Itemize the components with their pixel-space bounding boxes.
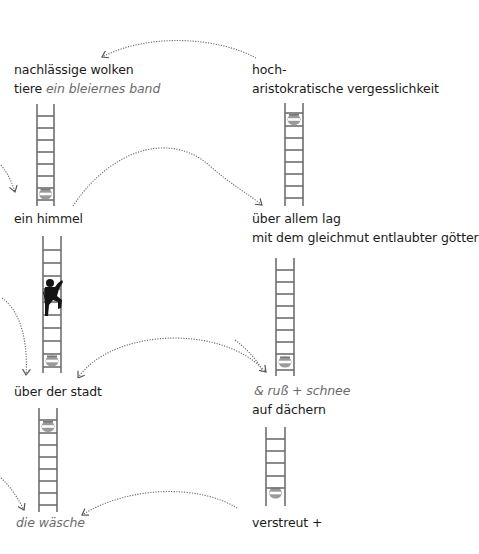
- dotted-arrow-icon: [1, 478, 24, 510]
- verse-text: mit dem gleichmut entlaubter götter: [252, 230, 479, 245]
- verse-text-italic: & ruß + schnee: [254, 383, 350, 398]
- verse-text: tiere: [14, 81, 42, 96]
- pot-icon: [269, 488, 282, 499]
- climbing-figure-icon: [43, 279, 63, 316]
- verse-text: über der stadt: [14, 384, 102, 399]
- pot-icon: [288, 114, 301, 125]
- right-stanza-2-line-2: mit dem gleichmut entlaubter götter: [252, 230, 479, 246]
- pot-icon: [279, 357, 292, 368]
- ladder-right-1: [285, 103, 303, 206]
- verse-text-italic: ein bleiernes band: [46, 81, 160, 96]
- ladder-left-2: [43, 236, 61, 373]
- left-stanza-4-line-1: die wäsche: [16, 515, 85, 531]
- right-stanza-2-line-1: über allem lag: [252, 211, 341, 227]
- dotted-arrow-icon: [102, 41, 256, 58]
- dotted-arrow-icon: [78, 338, 266, 378]
- right-stanza-3-line-1: & ruß + schnee: [254, 383, 350, 399]
- right-stanza-3-line-2: auf dächern: [252, 402, 326, 418]
- right-stanza-4-line-1: verstreut +: [252, 515, 322, 531]
- ladder-right-3: [266, 427, 285, 506]
- dotted-arrow-icon: [1, 165, 15, 192]
- ladder-left-1: [37, 104, 54, 206]
- right-stanza-1-line-2: aristokratische vergesslichkeit: [252, 81, 439, 97]
- verse-text: über allem lag: [252, 211, 341, 226]
- verse-text: auf dächern: [252, 402, 326, 417]
- pot-icon: [42, 421, 55, 432]
- ladder-right-2: [276, 258, 294, 376]
- dotted-arrow-icon: [235, 340, 262, 370]
- verse-text: hoch-: [252, 62, 286, 77]
- verse-text-italic: die wäsche: [16, 515, 85, 530]
- dotted-arrow-icon: [73, 148, 262, 206]
- verse-text: aristokratische vergesslichkeit: [252, 81, 439, 96]
- left-stanza-3-line-1: über der stadt: [14, 384, 102, 400]
- verse-text: ein himmel: [14, 211, 83, 226]
- left-stanza-1-line-2: tiere ein bleiernes band: [14, 81, 160, 97]
- pot-icon: [46, 356, 59, 367]
- verse-text: nachlässige wolken: [14, 62, 134, 77]
- left-stanza-2-line-1: ein himmel: [14, 211, 83, 227]
- right-stanza-1-line-1: hoch-: [252, 62, 286, 78]
- dotted-arrow-icon: [2, 298, 26, 375]
- left-stanza-1-line-1: nachlässige wolken: [14, 62, 134, 78]
- pot-icon: [39, 189, 52, 200]
- dotted-arrow-icon: [82, 492, 237, 515]
- ladder-left-3: [39, 408, 57, 512]
- verse-text: verstreut +: [252, 515, 322, 530]
